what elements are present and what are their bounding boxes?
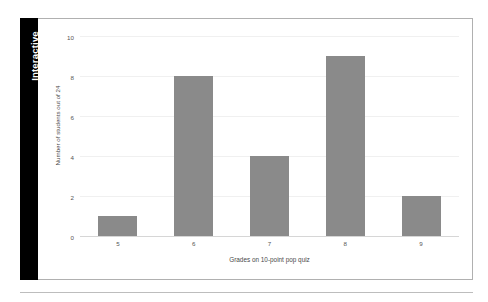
y-axis-tick-label: 2 — [71, 194, 74, 201]
x-axis-tick-label: 8 — [307, 240, 383, 247]
bar-slot — [307, 36, 383, 236]
x-axis-title: Grades on 10-point pop quiz — [80, 256, 459, 263]
bar[interactable] — [98, 216, 137, 236]
x-axis-tick-label: 7 — [232, 240, 308, 247]
x-axis-tick-label: 6 — [156, 240, 232, 247]
x-axis-tick-label: 5 — [80, 240, 156, 247]
x-axis-tick-label: 9 — [383, 240, 459, 247]
bar-slot — [156, 36, 232, 236]
bar-slot — [80, 36, 156, 236]
bar[interactable] — [326, 56, 365, 236]
bar-slot — [383, 36, 459, 236]
bottom-divider — [20, 292, 473, 293]
y-axis-tick-label: 10 — [67, 34, 74, 41]
bar-chart: Number of students out of 24 0246810 567… — [38, 18, 473, 280]
bar[interactable] — [250, 156, 289, 236]
bar[interactable] — [402, 196, 441, 236]
y-axis-tick-label: 6 — [71, 114, 74, 121]
bar[interactable] — [174, 76, 213, 236]
interactive-tab-label: Interactive — [29, 31, 40, 81]
y-axis-tick-label: 8 — [71, 74, 74, 81]
y-axis-tick-label: 0 — [71, 234, 74, 241]
interactive-tab[interactable]: Interactive — [20, 18, 38, 280]
x-axis-line: 0 — [80, 236, 459, 237]
plot-area: 0246810 — [80, 36, 459, 236]
bar-slot — [232, 36, 308, 236]
y-axis-title-text: Number of students out of 24 — [55, 85, 62, 165]
y-axis-tick-label: 4 — [71, 154, 74, 161]
bars-layer — [80, 36, 459, 236]
y-axis-title: Number of students out of 24 — [51, 18, 65, 232]
x-axis-tick-labels: 56789 — [80, 240, 459, 247]
